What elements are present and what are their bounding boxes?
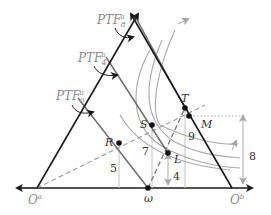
point-R — [116, 140, 122, 146]
value-L: 4 — [173, 170, 180, 183]
value-M: 8 — [249, 150, 256, 163]
gray-arrow-top — [178, 19, 188, 24]
origin-b-label: Ob — [230, 193, 245, 207]
value-T: 9 — [188, 130, 195, 143]
point-S — [149, 122, 155, 128]
ptf8-label: PTFa8 — [96, 13, 126, 29]
point-L — [165, 150, 171, 156]
label-M: M — [200, 118, 213, 131]
ptf-line-4 — [106, 57, 168, 153]
omega-label: ω — [144, 192, 153, 205]
point-T — [182, 105, 188, 111]
gray-arrow-right — [232, 141, 236, 150]
label-R: R — [104, 136, 113, 149]
origin-a-label: Oa — [28, 193, 42, 207]
label-S: S — [140, 118, 148, 131]
value-S: 7 — [142, 145, 149, 158]
value-R: 5 — [110, 162, 117, 175]
axis-a — [37, 14, 138, 188]
ptf8-pointer-arrow — [115, 28, 133, 38]
ptf4-label: PTFa4 — [77, 51, 107, 67]
point-omega — [145, 185, 151, 191]
label-L: L — [173, 153, 181, 166]
label-T: T — [181, 92, 190, 105]
ptf0-label: PTFa0 — [55, 89, 85, 105]
edgeworth-box-diagram: PTFa8 PTFa4 PTFa0 Oa Ob ω T M S R L 5 7 … — [0, 0, 271, 215]
point-M — [186, 113, 192, 119]
